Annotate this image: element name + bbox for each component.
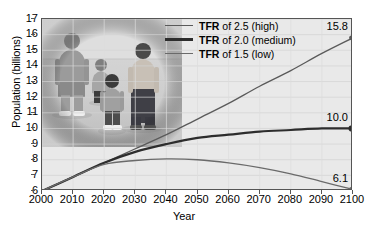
y-tick-mark xyxy=(31,65,35,66)
endpoint-marker-1 xyxy=(349,125,353,131)
legend-swatch-high xyxy=(165,25,193,26)
legend: TFR of 2.5 (high) TFR of 2.0 (medium) TF… xyxy=(165,19,315,61)
endpoint-label-low: 6.1 xyxy=(308,173,348,184)
legend-label-medium: TFR of 2.0 (medium) xyxy=(199,34,296,46)
legend-rest-high: of 2.5 (high) xyxy=(219,20,278,32)
x-tick-2050: 2050 xyxy=(180,194,214,205)
legend-item-high: TFR of 2.5 (high) xyxy=(165,19,315,32)
x-tick-mark xyxy=(259,190,260,194)
x-tick-2100: 2100 xyxy=(335,194,368,205)
x-axis-title: Year xyxy=(0,210,368,222)
x-tick-mark xyxy=(228,190,229,194)
y-tick-mark xyxy=(31,96,35,97)
x-tick-2030: 2030 xyxy=(117,194,151,205)
x-tick-2090: 2090 xyxy=(304,194,338,205)
x-tick-2000: 2000 xyxy=(24,194,58,205)
x-tick-mark xyxy=(72,190,73,194)
x-axis-tick-labels: 2000201020202030204020502060207020802090… xyxy=(0,194,368,210)
legend-item-medium: TFR of 2.0 (medium) xyxy=(165,33,315,46)
y-tick-mark xyxy=(31,18,35,19)
legend-label-low: TFR of 1.5 (low) xyxy=(199,48,274,60)
y-tick-mark xyxy=(31,49,35,50)
x-tick-mark xyxy=(352,190,353,194)
endpoint-label-medium: 10.0 xyxy=(308,112,348,123)
x-tick-mark xyxy=(197,190,198,194)
legend-bold-high: TFR xyxy=(199,20,219,32)
y-tick-mark xyxy=(31,112,35,113)
x-tick-2040: 2040 xyxy=(148,194,182,205)
y-tick-mark xyxy=(31,127,35,128)
x-tick-mark xyxy=(165,190,166,194)
legend-bold-medium: TFR xyxy=(199,34,219,46)
legend-rest-low: of 1.5 (low) xyxy=(219,48,274,60)
legend-item-low: TFR of 1.5 (low) xyxy=(165,47,315,60)
x-tick-mark xyxy=(290,190,291,194)
legend-label-high: TFR of 2.5 (high) xyxy=(199,20,278,32)
legend-rest-medium: of 2.0 (medium) xyxy=(219,34,295,46)
x-tick-mark xyxy=(41,190,42,194)
x-tick-2080: 2080 xyxy=(273,194,307,205)
y-tick-mark xyxy=(31,174,35,175)
x-tick-mark xyxy=(103,190,104,194)
x-tick-2060: 2060 xyxy=(211,194,245,205)
y-tick-mark xyxy=(31,159,35,160)
series-line-2 xyxy=(42,159,352,190)
legend-swatch-low xyxy=(165,53,193,54)
y-tick-mark xyxy=(31,34,35,35)
chart-figure: Population (billions) 171615141312111098… xyxy=(0,0,368,233)
legend-bold-low: TFR xyxy=(199,48,219,60)
y-tick-mark xyxy=(31,81,35,82)
y-tick-mark xyxy=(31,190,35,191)
x-tick-mark xyxy=(134,190,135,194)
x-tick-2020: 2020 xyxy=(86,194,120,205)
y-tick-mark xyxy=(31,143,35,144)
x-tick-2070: 2070 xyxy=(242,194,276,205)
x-tick-2010: 2010 xyxy=(55,194,89,205)
x-tick-mark xyxy=(321,190,322,194)
legend-swatch-medium xyxy=(165,38,193,41)
